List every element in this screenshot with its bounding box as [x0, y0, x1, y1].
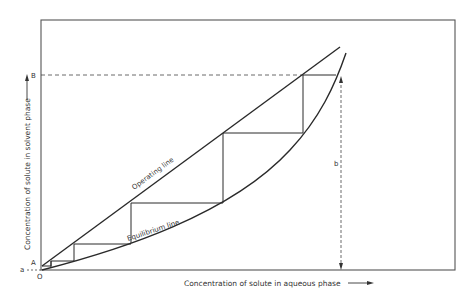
equilibrium-line — [42, 53, 346, 270]
b-dimension-label: b — [334, 160, 339, 168]
extraction-diagram: Operating line Equilibrium line B A a O … — [0, 0, 475, 300]
origin-label: O — [37, 273, 43, 281]
b-dimension-arrow — [339, 76, 343, 270]
point-b-label: B — [31, 72, 36, 80]
operating-line-label: Operating line — [130, 156, 175, 192]
point-a-label: A — [31, 259, 36, 267]
x-axis-label: Concentration of solute in aqueous phase — [184, 279, 341, 288]
x-axis-label-group: Concentration of solute in aqueous phase — [184, 279, 374, 288]
equilibrium-line-label: Equilibrium line — [126, 218, 180, 242]
plot-frame — [41, 20, 455, 270]
stage-steps — [42, 75, 336, 267]
operating-line — [42, 47, 340, 266]
y-axis-label: Concentration of solute in solvent phase — [23, 98, 32, 250]
y-axis-label-group: Concentration of solute in solvent phase — [23, 74, 32, 250]
point-a-lower-label: a — [20, 266, 24, 274]
